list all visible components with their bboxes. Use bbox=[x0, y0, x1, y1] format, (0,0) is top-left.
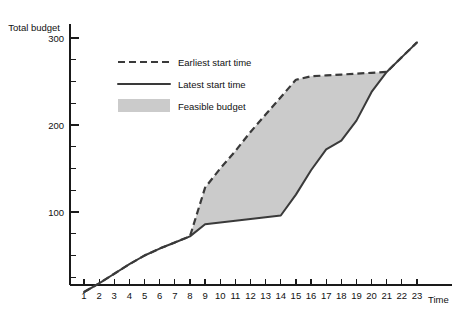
chart-canvas: 100200300 123456789101112131415161718192… bbox=[0, 0, 472, 325]
x-tick-label-16: 16 bbox=[306, 290, 317, 301]
budget-feasibility-chart: 100200300 123456789101112131415161718192… bbox=[0, 0, 472, 325]
x-tick-label-18: 18 bbox=[336, 290, 347, 301]
x-tick-label-4: 4 bbox=[127, 290, 132, 301]
x-tick-label-17: 17 bbox=[321, 290, 332, 301]
x-tick-label-8: 8 bbox=[187, 290, 192, 301]
x-axis-ticks: 1234567891011121314151617181920212223 bbox=[81, 279, 422, 301]
legend-swatch-feasible-budget bbox=[118, 99, 170, 112]
x-tick-label-5: 5 bbox=[142, 290, 147, 301]
x-tick-label-12: 12 bbox=[245, 290, 256, 301]
chart-legend: Earliest start timeLatest start timeFeas… bbox=[118, 57, 251, 113]
legend-label-2: Feasible budget bbox=[178, 101, 246, 112]
x-tick-label-10: 10 bbox=[215, 290, 226, 301]
x-tick-label-7: 7 bbox=[172, 290, 177, 301]
y-tick-label-300: 300 bbox=[48, 33, 64, 44]
y-tick-label-200: 200 bbox=[48, 120, 64, 131]
x-tick-label-2: 2 bbox=[96, 290, 101, 301]
x-tick-label-22: 22 bbox=[397, 290, 408, 301]
y-axis-ticks: 100200300 bbox=[48, 33, 79, 278]
x-tick-label-15: 15 bbox=[291, 290, 302, 301]
feasible-budget-region bbox=[190, 72, 387, 236]
legend-label-0: Earliest start time bbox=[178, 57, 251, 68]
x-tick-label-6: 6 bbox=[157, 290, 162, 301]
x-tick-label-11: 11 bbox=[230, 290, 240, 301]
x-tick-label-23: 23 bbox=[412, 290, 423, 301]
x-tick-label-20: 20 bbox=[366, 290, 377, 301]
x-tick-label-13: 13 bbox=[260, 290, 271, 301]
x-tick-label-3: 3 bbox=[112, 290, 117, 301]
x-tick-label-14: 14 bbox=[275, 290, 286, 301]
y-axis-title: Total budget bbox=[8, 22, 60, 33]
x-tick-label-9: 9 bbox=[202, 290, 207, 301]
x-tick-label-21: 21 bbox=[381, 290, 392, 301]
x-axis-title: Time bbox=[428, 294, 449, 305]
x-tick-label-19: 19 bbox=[351, 290, 362, 301]
legend-label-1: Latest start time bbox=[178, 79, 246, 90]
y-tick-label-100: 100 bbox=[48, 207, 64, 218]
